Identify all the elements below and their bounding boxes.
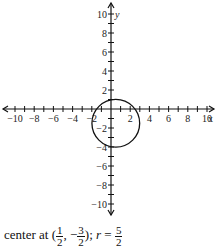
radius-fraction: 52	[115, 225, 123, 248]
answer-caption: center at (12, −32); r = 52	[4, 225, 122, 248]
y-tick-label: −6	[96, 161, 107, 172]
y-tick-label: 6	[102, 47, 107, 58]
caption-eq: =	[101, 227, 115, 242]
y-tick-label: 8	[102, 28, 107, 39]
caption-mid: );	[85, 227, 96, 242]
x-tick-label: 2	[128, 113, 133, 124]
caption-sep: , −	[63, 227, 77, 242]
y-tick-label: −2	[96, 123, 107, 134]
y-tick-label: 10	[97, 9, 107, 20]
caption-prefix: center at (	[4, 227, 56, 242]
y-tick-label: −8	[96, 180, 107, 191]
y-tick-label: 2	[102, 85, 107, 96]
x-tick-label: −8	[29, 113, 40, 124]
x-tick-label: 8	[185, 113, 190, 124]
y-tick-label: −10	[91, 199, 107, 210]
x-tick-label: 6	[166, 113, 171, 124]
center-y-denominator: 2	[77, 237, 85, 248]
radius-denominator: 2	[115, 237, 123, 248]
x-tick-label: 4	[147, 113, 152, 124]
center-y-fraction: 32	[77, 225, 85, 248]
x-tick-label: −10	[7, 113, 23, 124]
y-tick-label: 4	[102, 66, 107, 77]
y-axis-label: y	[114, 9, 120, 20]
x-tick-label: −6	[48, 113, 59, 124]
x-axis-label: x	[208, 113, 213, 124]
coordinate-plane: −10−8−6−4−2246810108642−2−4−6−8−10 x y	[0, 0, 217, 225]
x-tick-label: −4	[67, 113, 78, 124]
